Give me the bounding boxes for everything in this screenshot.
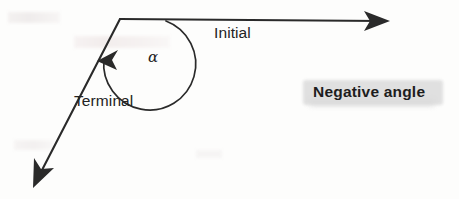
negative-angle-caption: Negative angle [313, 84, 425, 100]
angle-alpha-label: α [148, 50, 158, 65]
initial-ray [120, 11, 390, 31]
angle-arc-arrowhead [97, 50, 118, 70]
initial-ray-label: Initial [214, 25, 251, 41]
terminal-ray-arrowhead [33, 158, 54, 188]
negative-angle-figure: Initial Terminal α Negative angle [0, 0, 459, 199]
terminal-ray-label: Terminal [74, 93, 133, 109]
